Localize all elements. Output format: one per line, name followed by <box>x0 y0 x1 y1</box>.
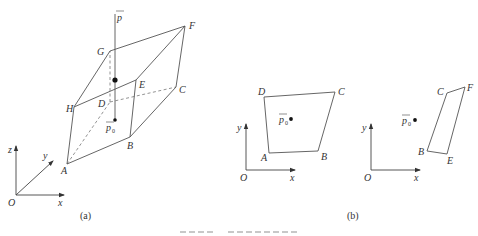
label-G: G <box>97 46 104 57</box>
point-p0 <box>113 118 117 122</box>
caption-a: (a) <box>80 210 91 222</box>
axes-2d-right: y x O <box>361 122 420 183</box>
panel-a: F G E C H D B A p p 0 z y x O (a) <box>7 11 196 222</box>
caption-b: (b) <box>347 210 359 222</box>
axes-3d: z y x O <box>7 144 64 208</box>
quad-BEFC <box>427 87 465 154</box>
figure: F G E C H D B A p p 0 z y x O (a) <box>0 0 478 236</box>
svg-text:p: p <box>278 114 284 125</box>
edge-E-B <box>130 80 136 137</box>
svg-text:p: p <box>116 12 122 23</box>
svg-text:p: p <box>401 115 407 126</box>
quad-ABCD <box>264 92 335 153</box>
label-F: F <box>188 20 196 31</box>
label-C-right: C <box>437 86 444 97</box>
label-C-left: C <box>338 86 345 97</box>
panel-b-left: p 0 D C B A y x O <box>236 86 345 183</box>
label-D-left: D <box>257 86 266 97</box>
clipped-figure-caption <box>180 231 300 236</box>
panel-b-right: p 0 C F B E y x O <box>361 82 474 183</box>
edge-B-C <box>130 87 176 137</box>
point-p0-left <box>289 117 293 121</box>
label-A: A <box>60 165 68 176</box>
label-y: y <box>42 150 48 161</box>
label-y-right: y <box>361 122 367 133</box>
svg-text:0: 0 <box>285 120 288 126</box>
label-p0-left: p 0 <box>278 114 288 126</box>
label-p: p <box>116 11 124 23</box>
label-F-right: F <box>466 82 474 93</box>
svg-text:p: p <box>105 122 111 133</box>
label-B-left: B <box>321 151 327 162</box>
label-z: z <box>7 144 12 155</box>
label-x: x <box>57 197 63 208</box>
label-O-right: O <box>364 172 371 183</box>
label-x-right: x <box>413 172 419 183</box>
label-p0: p 0 <box>105 122 115 134</box>
label-E-right: E <box>446 155 453 166</box>
svg-text:0: 0 <box>112 128 115 134</box>
label-H: H <box>65 103 74 114</box>
label-B: B <box>127 140 133 151</box>
label-O-left: O <box>240 172 247 183</box>
label-y-left: y <box>236 122 242 133</box>
y-axis <box>16 161 53 195</box>
label-D: D <box>97 98 106 109</box>
edge-C-F <box>176 26 185 87</box>
edge-H-A <box>67 107 74 164</box>
label-x-left: x <box>289 172 295 183</box>
label-O: O <box>8 197 15 208</box>
point-p0-right <box>413 118 417 122</box>
label-p0-right: p 0 <box>401 115 411 127</box>
label-A-left: A <box>260 152 268 163</box>
label-B-right: B <box>418 146 424 157</box>
label-C: C <box>179 84 186 95</box>
svg-text:0: 0 <box>408 121 411 127</box>
label-E: E <box>138 79 145 90</box>
intersection-point <box>112 77 117 82</box>
edge-A-B <box>67 137 130 164</box>
